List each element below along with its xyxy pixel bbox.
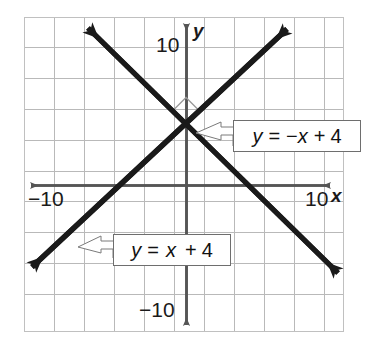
x-axis-negative-tick-label: −10 [28, 188, 64, 209]
plot-background [24, 17, 344, 332]
callout1-var-y: y [252, 125, 262, 147]
y-axis-positive-tick-label: 10 [156, 34, 179, 55]
callout-positive-slope-text: y=x+4 [131, 239, 213, 262]
graph-figure: 10 −10 −10 10 y x y=−x+4 y=x+4 [0, 0, 379, 351]
callout1-equals: = [268, 125, 280, 147]
callout1-plus: + [314, 125, 326, 147]
y-axis-label: y [193, 21, 204, 40]
callout-positive-slope: y=x+4 [113, 234, 231, 266]
callout2-var-y: y [131, 239, 141, 261]
x-axis-positive-tick-label: 10 [305, 188, 328, 209]
callout-negative-slope: y=−x+4 [233, 120, 361, 152]
callout1-var-x: x [298, 125, 308, 147]
x-axis-label: x [331, 186, 342, 205]
callout-negative-slope-text: y=−x+4 [252, 125, 341, 148]
callout2-var-x: x [166, 239, 176, 261]
callout1-minus: − [286, 125, 298, 147]
callout2-plus: + [185, 239, 197, 261]
callout2-constant: 4 [202, 239, 213, 261]
callout2-equals: = [147, 239, 159, 261]
callout1-constant: 4 [330, 125, 341, 147]
y-axis-negative-tick-label: −10 [139, 299, 175, 320]
coordinate-plane-svg [0, 0, 379, 351]
